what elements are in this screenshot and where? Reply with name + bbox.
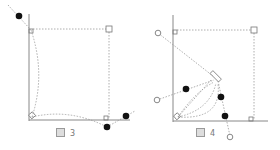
figure-3 [8, 5, 135, 130]
corner-square-marker [251, 27, 257, 33]
filled-dot [183, 86, 190, 93]
figure-glyph-icon [56, 128, 65, 137]
filled-dot [218, 94, 225, 101]
dotted-ray [107, 111, 135, 127]
dotted-arc [31, 30, 39, 117]
figure-4 [154, 15, 268, 140]
filled-dot [123, 113, 130, 120]
open-circle [154, 97, 160, 103]
filled-dot [104, 124, 111, 131]
right-angle-marker [249, 117, 253, 121]
diagram-canvas [0, 0, 280, 150]
figure-number: 4 [210, 129, 215, 138]
figure-4-caption: 4 [196, 128, 215, 138]
corner-square-marker [106, 26, 112, 32]
figure-number: 3 [70, 129, 75, 138]
dotted-ray [218, 81, 230, 136]
figure-3-caption: 3 [56, 128, 75, 138]
figure-glyph-icon [196, 128, 205, 137]
rotated-panel-marker [210, 71, 221, 82]
right-angle-marker [173, 30, 177, 34]
open-circle [155, 30, 161, 36]
open-circle [227, 134, 233, 140]
pivot-square-marker [174, 113, 181, 120]
dotted-ray [158, 33, 213, 76]
right-angle-marker [104, 116, 108, 120]
dotted-line [178, 80, 211, 117]
pivot-square-marker [29, 112, 36, 119]
dotted-arc [32, 114, 107, 127]
filled-dot [16, 13, 23, 20]
filled-dot [222, 113, 229, 120]
